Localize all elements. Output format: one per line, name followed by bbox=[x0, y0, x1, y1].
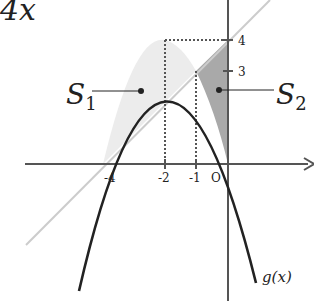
graph: 4x S1 S2 -4 -2 -1 O 4 3 g(x) bbox=[0, 0, 314, 301]
g-of-x-label: g(x) bbox=[262, 268, 292, 286]
s2-label: S2 bbox=[276, 78, 307, 114]
origin-label: O bbox=[211, 171, 221, 185]
line-y-equals-x-plus-4 bbox=[26, 0, 270, 245]
y-tick-3: 3 bbox=[238, 65, 246, 79]
region-s1 bbox=[103, 40, 196, 164]
x-tick-neg1: -1 bbox=[189, 171, 201, 185]
title-fragment: 4x bbox=[0, 0, 36, 27]
x-tick-neg4: -4 bbox=[104, 171, 116, 185]
y-tick-4: 4 bbox=[238, 34, 246, 48]
x-tick-neg2: -2 bbox=[158, 171, 170, 185]
parabola-g bbox=[79, 101, 256, 291]
s1-label: S1 bbox=[66, 78, 97, 114]
s1-dot bbox=[138, 88, 144, 94]
s2-dot bbox=[216, 87, 222, 93]
